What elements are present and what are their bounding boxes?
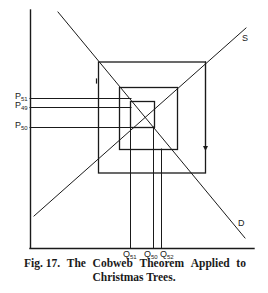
- cobweb-diagram: S D P51 P49 P50 Q51 Q50 Q52: [0, 0, 268, 250]
- supply-curve: [34, 28, 246, 216]
- price-label-p50: P50: [15, 121, 28, 131]
- caption-word: Applied: [191, 256, 230, 270]
- price-label-p49: P49: [15, 101, 28, 111]
- caption-word: to: [236, 256, 246, 270]
- caption-word: Theorem: [140, 256, 185, 270]
- demand-label: D: [238, 219, 245, 228]
- figure-caption: Fig. 17. The Cobweb Theorem Applied to C…: [0, 256, 268, 285]
- demand-curve: [58, 12, 245, 238]
- arrow-head-icon: [203, 146, 208, 151]
- caption-word: Cobweb: [93, 256, 133, 270]
- caption-word: The: [67, 256, 86, 270]
- diagram-svg: [0, 0, 268, 250]
- caption-line-2: Christmas Trees.: [0, 270, 268, 284]
- caption-fig-number: Fig. 17.: [24, 256, 60, 270]
- supply-label: S: [242, 34, 248, 43]
- caption-line-1: Fig. 17. The Cobweb Theorem Applied to: [0, 256, 268, 270]
